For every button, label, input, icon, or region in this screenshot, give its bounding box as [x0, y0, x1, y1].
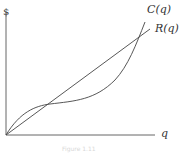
cost-curve-label: C(q)	[147, 4, 171, 15]
diagram-canvas	[0, 0, 180, 154]
cost-curve	[6, 22, 145, 135]
revenue-line-label: R(q)	[155, 23, 179, 34]
x-axis-label: q	[161, 128, 168, 139]
revenue-line	[6, 29, 150, 135]
y-axis-label: $	[3, 6, 9, 17]
figure-caption: Figure 1.11	[62, 145, 96, 152]
